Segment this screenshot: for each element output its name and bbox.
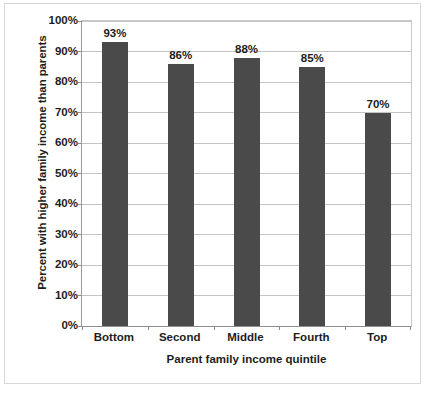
y-tick-label: 90% <box>36 45 78 57</box>
y-tick-label: 0% <box>36 319 78 331</box>
y-tick-mark <box>78 51 82 52</box>
y-tick-mark <box>78 204 82 205</box>
bar-value-label: 88% <box>217 43 277 55</box>
y-tick-mark <box>78 143 82 144</box>
bar-chart-figure: Percent with higher family income than p… <box>0 0 426 394</box>
bar <box>102 42 128 326</box>
bar-value-label: 70% <box>348 98 408 110</box>
x-tick-mark <box>82 326 83 330</box>
bar <box>299 67 325 326</box>
y-tick-label: 10% <box>36 289 78 301</box>
y-tick-label: 20% <box>36 258 78 270</box>
y-tick-label: 60% <box>36 136 78 148</box>
y-tick-label: 30% <box>36 228 78 240</box>
x-tick-mark <box>345 326 346 330</box>
gridline <box>82 21 411 22</box>
x-tick-mark <box>410 326 411 330</box>
bar <box>365 113 391 327</box>
x-tick-label: Top <box>337 331 417 343</box>
y-tick-label: 80% <box>36 75 78 87</box>
y-tick-mark <box>78 112 82 113</box>
x-tick-mark <box>214 326 215 330</box>
y-tick-mark <box>78 295 82 296</box>
y-tick-label: 70% <box>36 106 78 118</box>
x-axis-title: Parent family income quintile <box>81 353 412 365</box>
bar-value-label: 85% <box>282 52 342 64</box>
y-tick-label: 50% <box>36 167 78 179</box>
bar-value-label: 86% <box>151 49 211 61</box>
y-tick-mark <box>78 173 82 174</box>
y-tick-label: 40% <box>36 197 78 209</box>
plot-area: 93%86%88%85%70% <box>81 20 412 327</box>
x-axis-tick-labels: BottomSecondMiddleFourthTop <box>81 331 412 349</box>
x-tick-mark <box>279 326 280 330</box>
y-axis-tick-labels: 0%10%20%30%40%50%60%70%80%90%100% <box>36 20 78 325</box>
y-tick-mark <box>78 265 82 266</box>
y-tick-mark <box>78 82 82 83</box>
y-tick-mark <box>78 234 82 235</box>
bar <box>168 64 194 326</box>
bar <box>234 58 260 326</box>
bar-value-label: 93% <box>85 27 145 39</box>
y-tick-label: 100% <box>36 14 78 26</box>
x-tick-mark <box>148 326 149 330</box>
y-tick-mark <box>78 21 82 22</box>
